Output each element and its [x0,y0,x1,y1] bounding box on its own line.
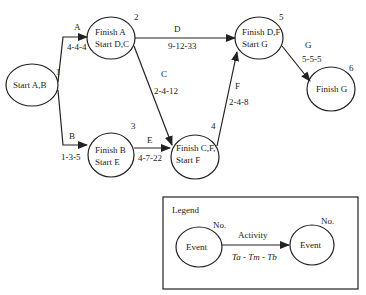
legend-right-number: No. [321,216,334,227]
node-number-5: 5 [279,12,284,23]
node-number-1: 1 [56,67,61,78]
node-2-line1: Finish A [95,26,129,38]
node-2-line2: Start D,C [95,38,129,50]
node-number-6: 6 [349,63,354,74]
activity-b-times: 1-3-5 [61,152,81,163]
node-6-label: Finish G [316,83,347,95]
node-4-line1: Finish C,F, [176,142,216,154]
node-1-label: Start A,B [13,79,47,91]
legend-left-event: Event [186,242,207,253]
legend-activity-label: Activity [238,230,268,241]
activity-d-times: 9-12-33 [168,41,197,52]
activity-d-name: D [174,24,181,35]
node-4-label: Finish C,F,Start F [176,142,216,166]
activity-e-times: 4-7-22 [138,153,162,164]
activity-c-times: 2-4-12 [154,86,178,97]
node-1-line1: Start A,B [13,80,47,90]
node-number-3: 3 [131,121,136,132]
node-number-4: 4 [211,121,216,132]
node-4-line2: Start F [176,154,216,166]
activity-e-name: E [147,135,153,146]
activity-f-name: F [235,81,240,92]
node-3-line1: Finish B [95,144,126,156]
legend-right-event: Event [300,240,321,251]
node-3-line2: Start E [95,156,126,168]
activity-a-name: A [74,22,81,33]
node-5-line2: Start G [242,38,281,50]
node-2-label: Finish AStart D,C [95,26,129,50]
activity-b-name: B [69,131,75,142]
node-3-label: Finish BStart E [95,144,126,168]
activity-a-times: 4-4-4 [67,42,87,53]
activity-g-times: 5-5-5 [302,54,322,65]
node-5-label: Finish D,FStart G [242,26,281,50]
legend-times-label: Ta - Tm - Tb [232,252,277,263]
node-5-line1: Finish D,F [242,26,281,38]
activity-g-name: G [305,40,312,51]
node-number-2: 2 [134,12,139,23]
activity-f-times: 2-4-8 [229,97,249,108]
legend-title: Legend [172,205,199,216]
node-6-line1: Finish G [316,84,347,94]
activity-c-name: C [161,69,167,80]
legend-left-number: No. [213,220,226,231]
